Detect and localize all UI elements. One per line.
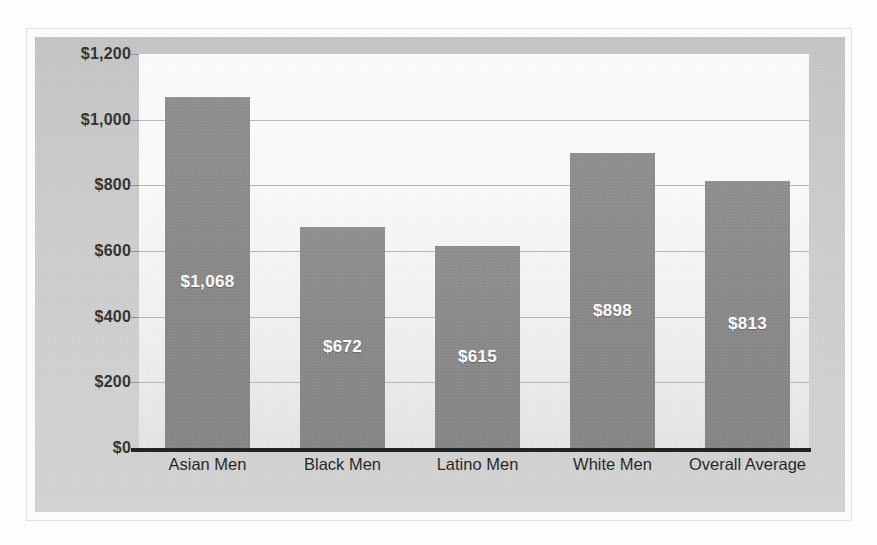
bar-white-men[interactable]: $898: [570, 153, 655, 448]
y-tick-label-1000: $1,000: [81, 111, 131, 129]
y-tick-label-800: $800: [95, 176, 131, 194]
x-tick-label-white-men: White Men: [550, 455, 675, 474]
x-tick-label-overall-average: Overall Average: [677, 455, 818, 474]
bar-value-asian-men: $1,068: [165, 272, 250, 292]
y-tick-mark-600: [131, 251, 139, 252]
y-tick-label-1200: $1,200: [81, 45, 131, 63]
y-tick-label-0: $0: [113, 439, 131, 457]
bar-overall-average[interactable]: $813: [705, 181, 790, 448]
bar-series: $1,068 $672 $615 $898 $813: [139, 54, 809, 448]
bar-value-latino-men: $615: [435, 347, 520, 367]
y-tick-label-400: $400: [95, 308, 131, 326]
bar-black-men[interactable]: $672: [300, 227, 385, 448]
chart-screenshot: $1,200 $1,000 $800 $600 $400 $200 $0 $1,…: [0, 0, 877, 545]
x-tick-label-latino-men: Latino Men: [415, 455, 540, 474]
y-axis: $1,200 $1,000 $800 $600 $400 $200 $0: [35, 37, 131, 512]
y-tick-mark-1000: [131, 120, 139, 121]
bar-asian-men[interactable]: $1,068: [165, 97, 250, 448]
y-tick-mark-200: [131, 382, 139, 383]
bar-value-overall-average: $813: [705, 314, 790, 334]
bar-value-white-men: $898: [570, 301, 655, 321]
y-tick-label-200: $200: [95, 373, 131, 391]
bar-value-black-men: $672: [300, 337, 385, 357]
x-tick-label-asian-men: Asian Men: [145, 455, 270, 474]
x-axis: Asian Men Black Men Latino Men White Men…: [139, 455, 819, 489]
bar-latino-men[interactable]: $615: [435, 246, 520, 448]
bar-chart: $1,200 $1,000 $800 $600 $400 $200 $0 $1,…: [35, 37, 845, 512]
y-tick-mark-400: [131, 317, 139, 318]
x-tick-label-black-men: Black Men: [280, 455, 405, 474]
y-tick-label-600: $600: [95, 242, 131, 260]
y-tick-mark-800: [131, 185, 139, 186]
x-axis-baseline: [131, 448, 811, 452]
y-tick-mark-1200: [131, 54, 139, 55]
